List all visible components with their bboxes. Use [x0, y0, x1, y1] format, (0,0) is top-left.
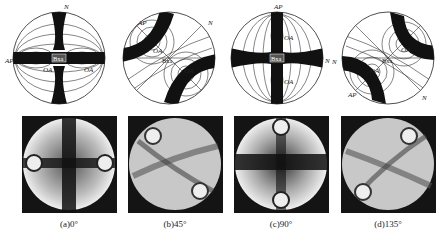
bxa-label: Bxa: [382, 57, 393, 64]
interference-photo-a: [22, 116, 117, 213]
optic-axis-label: OA: [153, 47, 163, 55]
interference-photo-d: [341, 116, 436, 213]
axial-plane-label: AP: [347, 91, 357, 99]
interference-photo-b: [128, 116, 223, 213]
optic-axis-label: OA: [284, 78, 294, 86]
interference-photo-c: [234, 116, 329, 213]
optic-axis-label: OA: [370, 67, 380, 75]
normal-label: N: [331, 58, 337, 66]
axial-plane-label: AP: [273, 3, 283, 11]
bxa-label: Bxa: [53, 55, 64, 62]
normal-label: N: [207, 19, 213, 27]
diagram-c: Bxa AP OA OA N: [222, 0, 332, 114]
axial-plane-label: AP: [137, 19, 147, 27]
normal-label: N: [63, 3, 69, 11]
caption-a: (a)0°: [14, 219, 124, 229]
optic-axis-label: OA: [184, 67, 194, 75]
optic-axis-label: OA: [284, 34, 294, 42]
diagram-b: Bxa AP N OA OA: [112, 0, 222, 114]
optic-axis-label: OA: [43, 66, 53, 74]
bxa-label: Bxa: [271, 55, 282, 62]
optic-axis-label: OA: [84, 66, 94, 74]
caption-d: (d)135°: [333, 219, 440, 229]
diagram-d: Bxa N N AP OA OA: [330, 0, 440, 114]
caption-b: (b)45°: [120, 219, 230, 229]
bxa-label: Bxa: [162, 57, 173, 64]
caption-c: (c)90°: [226, 219, 336, 229]
axial-plane-label: AP: [4, 57, 14, 65]
normal-label: N: [421, 94, 427, 102]
diagram-a: Bxa N AP OA OA: [4, 0, 114, 114]
optic-axis-label: OA: [401, 46, 411, 54]
